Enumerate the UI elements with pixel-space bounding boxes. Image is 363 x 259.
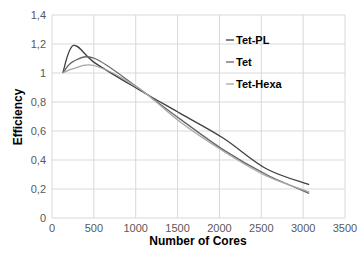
line-chart: 00,20,40,60,811,21,4 0500100015002000250… (0, 0, 363, 259)
legend-label: Tet (236, 56, 252, 68)
legend: Tet-PLTetTet-Hexa (226, 34, 283, 90)
x-tick-label: 1000 (123, 222, 147, 234)
y-axis-title: Efficiency (11, 88, 25, 145)
x-tick-label: 3000 (291, 222, 315, 234)
series-line-tet-pl (63, 45, 309, 184)
y-tick-label: 0 (40, 212, 46, 224)
gridlines (52, 15, 345, 218)
y-tick-label: 1 (40, 67, 46, 79)
y-tick-label: 0,8 (31, 96, 46, 108)
y-tick-label: 0,4 (31, 154, 46, 166)
x-tick-label: 0 (49, 222, 55, 234)
y-tick-label: 0,2 (31, 183, 46, 195)
y-tick-label: 1,4 (31, 9, 46, 21)
legend-label: Tet-PL (236, 34, 270, 46)
y-tick-label: 0,6 (31, 125, 46, 137)
y-tick-label: 1,2 (31, 38, 46, 50)
legend-label: Tet-Hexa (236, 78, 283, 90)
data-series (63, 45, 309, 193)
x-axis-ticks: 0500100015002000250030003500 (49, 222, 357, 234)
x-tick-label: 2000 (207, 222, 231, 234)
x-tick-label: 1500 (165, 222, 189, 234)
x-axis-title: Number of Cores (149, 234, 247, 248)
x-tick-label: 3500 (333, 222, 357, 234)
y-axis-ticks: 00,20,40,60,811,21,4 (31, 9, 46, 224)
x-tick-label: 500 (85, 222, 103, 234)
x-tick-label: 2500 (249, 222, 273, 234)
